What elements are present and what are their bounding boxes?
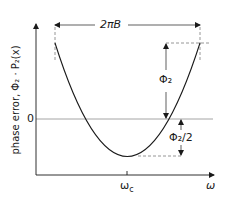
center-frequency-sub: c (129, 185, 133, 194)
half-peak-label: Φ₂/2 (169, 132, 193, 143)
center-frequency-label: ωc (120, 180, 134, 194)
x-axis-label: ω (206, 180, 215, 191)
y-axis-label: phase error, Φ₂ · P₂(x) (10, 45, 21, 154)
zero-label: 0 (27, 113, 34, 124)
center-frequency-omega: ω (120, 179, 129, 192)
peak-label: Φ₂ (159, 74, 172, 85)
phase-error-diagram: phase error, Φ₂ · P₂(x) 0 2πB Φ₂ Φ₂/2 ωc… (0, 0, 227, 204)
bandwidth-label: 2πB (100, 19, 121, 30)
bandwidth-label-text: 2πB (100, 18, 121, 31)
